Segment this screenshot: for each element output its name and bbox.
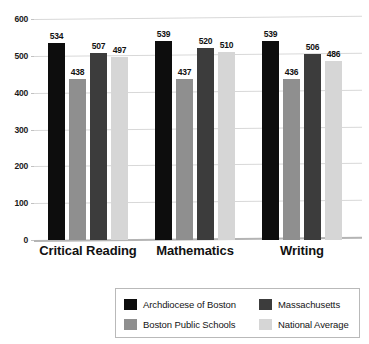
legend-swatch [259, 299, 272, 310]
bar[interactable]: 534 [48, 43, 65, 240]
bar[interactable]: 486 [325, 61, 342, 240]
bar-fill [283, 79, 300, 240]
x-axis-label: Critical Reading [39, 243, 136, 258]
y-axis-tick-label: 100 [0, 198, 28, 208]
bar-fill [325, 61, 342, 240]
bar-value-label: 497 [113, 45, 127, 55]
bar-value-label: 539 [264, 29, 278, 39]
bar[interactable]: 510 [218, 52, 235, 240]
y-axis-tick-label: 600 [0, 14, 28, 24]
legend-swatch [124, 299, 137, 310]
bar-group: 539436506486 [262, 19, 346, 240]
bar-value-label: 436 [285, 67, 299, 77]
legend-swatch [259, 319, 272, 330]
bar-value-label: 506 [306, 42, 320, 52]
bar-fill [197, 48, 214, 240]
bar[interactable]: 497 [111, 57, 128, 240]
bar[interactable]: 539 [262, 41, 279, 240]
bar-fill [90, 53, 107, 240]
bar-group: 534438507497 [48, 19, 132, 240]
legend-label: National Average [278, 319, 349, 330]
bar-fill [48, 43, 65, 240]
bar-fill [111, 57, 128, 240]
y-axis-tick-label: 0 [0, 235, 28, 245]
bar-value-label: 520 [199, 36, 213, 46]
bar-group: 539437520510 [155, 19, 239, 240]
bar[interactable]: 539 [155, 41, 172, 240]
bar-value-label: 437 [178, 67, 192, 77]
legend-label: Boston Public Schools [143, 319, 235, 330]
bar-fill [262, 41, 279, 240]
bar-fill [69, 79, 86, 240]
bar-value-label: 510 [220, 40, 234, 50]
chart-legend: Archdiocese of BostonMassachusettsBoston… [115, 288, 360, 338]
x-axis-label: Writing [280, 243, 324, 258]
bar-value-label: 438 [71, 67, 85, 77]
legend-item[interactable]: Archdiocese of Boston [124, 299, 259, 310]
legend-label: Massachusetts [278, 299, 340, 310]
y-axis-tick-label: 300 [0, 125, 28, 135]
bar-value-label: 507 [92, 41, 106, 51]
bar-value-label: 534 [50, 31, 64, 41]
bar[interactable]: 438 [69, 79, 86, 240]
bar-fill [176, 79, 193, 240]
bar-value-label: 539 [157, 29, 171, 39]
grouped-bar-chart: 0100200300400500600 53443850749753943752… [0, 0, 369, 282]
y-axis-tick-label: 200 [0, 161, 28, 171]
y-axis-tick-label: 400 [0, 88, 28, 98]
legend-label: Archdiocese of Boston [143, 299, 236, 310]
legend-item[interactable]: Boston Public Schools [124, 319, 259, 330]
bar-fill [155, 41, 172, 240]
legend-item[interactable]: National Average [259, 319, 369, 330]
x-axis-label: Mathematics [156, 243, 234, 258]
bar-fill [218, 52, 235, 240]
legend-swatch [124, 319, 137, 330]
bar[interactable]: 437 [176, 79, 193, 240]
bar-value-label: 486 [327, 49, 341, 59]
y-axis-tick-label: 500 [0, 51, 28, 61]
bar[interactable]: 520 [197, 48, 214, 240]
bar[interactable]: 507 [90, 53, 107, 240]
legend-item[interactable]: Massachusetts [259, 299, 369, 310]
plot-area: 534438507497539437520510539436506486 [34, 19, 362, 240]
bar-fill [304, 54, 321, 240]
bar[interactable]: 436 [283, 79, 300, 240]
bar[interactable]: 506 [304, 54, 321, 240]
